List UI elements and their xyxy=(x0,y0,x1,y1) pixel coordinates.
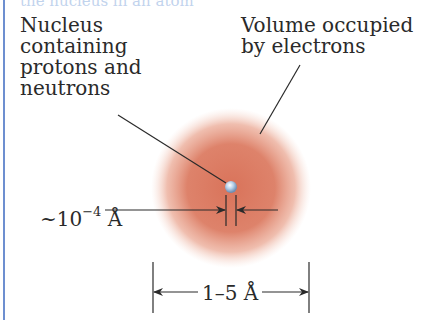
nucleus-size-unit: Å xyxy=(101,207,122,231)
volume-leader-line xyxy=(260,65,300,134)
atom-diagram: the nucleus in an atom xyxy=(0,0,423,320)
electron-volume-label: Volume occupied by electrons xyxy=(241,15,413,57)
nucleus-label: Nucleus containing protons and neutrons xyxy=(20,15,142,99)
nucleus-size-exponent: −4 xyxy=(82,204,101,219)
nucleus-size-label: ~10−4 Å xyxy=(40,203,122,230)
nucleus-size-prefix: ~10 xyxy=(40,207,82,231)
atom-size-label: 1–5 Å xyxy=(198,283,262,304)
nucleus xyxy=(225,181,237,193)
